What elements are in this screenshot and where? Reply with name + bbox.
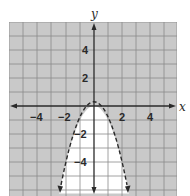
x-axis-label: x	[179, 100, 186, 114]
y-tick-label: 4	[82, 44, 89, 56]
inequality-graph: y x −4 −2 2 4 4 2 −2 −4	[0, 0, 190, 196]
y-tick-label: −4	[74, 156, 87, 168]
x-tick-label: 2	[119, 111, 125, 123]
y-axis-label: y	[90, 7, 98, 21]
x-tick-label: −4	[30, 111, 43, 123]
x-tick-label: −2	[58, 111, 71, 123]
x-tick-label: 4	[147, 111, 154, 123]
y-tick-label: 2	[82, 72, 88, 84]
y-tick-label: −2	[74, 128, 87, 140]
